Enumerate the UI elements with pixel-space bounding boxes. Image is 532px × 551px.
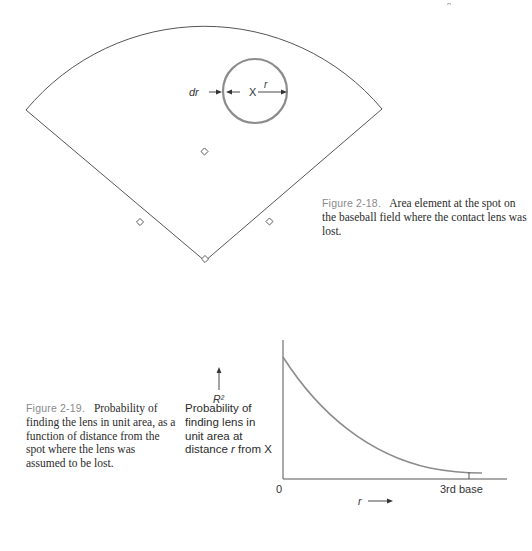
figure-2-19-label: Figure 2-19. [26,402,85,414]
dr-label: dr [189,86,200,98]
origin-label: 0 [276,483,282,495]
third-base-label: 3rd base [440,483,483,495]
dr-arrow-right-icon [216,90,222,95]
second-base-icon [201,148,208,155]
y-axis-description: Probability of finding lens in unit area… [185,402,285,457]
first-base-icon [266,218,273,225]
x-mark-label: X [249,86,257,98]
home-plate-icon [201,255,208,262]
up-arrow-icon [217,367,222,373]
x-axis-label: r [358,495,362,507]
x-axis-arrow-icon [387,499,393,504]
figure-2-18-caption: Figure 2-18. Area element at the spot on… [322,197,527,238]
third-base-icon [136,218,143,225]
figure-2-19-caption: Figure 2-19. Probability of finding the … [26,402,176,471]
probability-curve [283,357,482,473]
y-desc-line-4b: from X [235,443,272,455]
r-label: r [264,79,268,90]
dr-arrow-left-icon [226,90,232,95]
y-desc-line-2: finding lens in [185,416,255,428]
y-desc-line-3: unit area at [185,430,243,442]
y-desc-line-4a: distance [185,443,231,455]
figure-2-18-label: Figure 2-18. [322,197,381,209]
y-desc-line-1: Probability of [185,402,251,414]
